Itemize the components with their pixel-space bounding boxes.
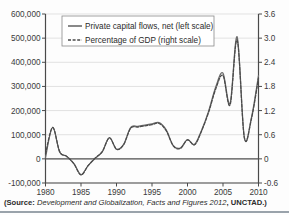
left-tick-label: 300,000 — [11, 82, 41, 91]
x-tick-label: 2010 — [249, 188, 268, 197]
x-tick-label: 1985 — [72, 188, 91, 197]
left-tick-label: 200,000 — [11, 107, 41, 116]
right-tick-label: 3.0 — [264, 34, 276, 43]
x-tick-label: 1990 — [107, 188, 126, 197]
source-caption: (Source: Development and Globalization, … — [4, 198, 287, 207]
data-series-layer — [46, 37, 259, 175]
x-tick-label: 2000 — [178, 188, 197, 197]
source-caption-tail: , UNCTAD.) — [226, 198, 266, 207]
x-axis-ticks — [46, 183, 259, 187]
right-tick-label: -0.6 — [264, 179, 279, 188]
legend-label-2: Percentage of GDP (right scale) — [85, 36, 201, 45]
right-tick-label: 0 — [264, 155, 269, 164]
bottom-divider — [0, 211, 289, 213]
left-tick-label: 400,000 — [11, 58, 41, 67]
left-tick-label: 500,000 — [11, 34, 41, 43]
series-line-1 — [46, 37, 259, 175]
left-tick-label: -100,000 — [8, 179, 41, 188]
right-tick-label: 1.8 — [264, 82, 276, 91]
legend-label-1: Private capital flows, net (left scale) — [85, 22, 214, 31]
left-tick-label: 100,000 — [11, 131, 41, 140]
right-tick-label: 1.2 — [264, 107, 276, 116]
figure-container: -100,0000100,000200,000300,000400,000500… — [0, 0, 289, 215]
series-line-2 — [46, 40, 259, 175]
left-tick-label: 600,000 — [11, 10, 41, 19]
x-tick-label: 1995 — [143, 188, 162, 197]
source-caption-lead: (Source: — [4, 198, 37, 207]
chart-legend: Private capital flows, net (left scale)P… — [62, 16, 214, 46]
chart-plot-area: -100,0000100,000200,000300,000400,000500… — [0, 0, 289, 215]
left-tick-label: 0 — [36, 155, 41, 164]
right-tick-label: 0.6 — [264, 131, 276, 140]
right-tick-label: 2.4 — [264, 58, 276, 67]
x-tick-label: 2005 — [214, 188, 233, 197]
x-tick-label: 1980 — [36, 188, 55, 197]
source-caption-title: Development and Globalization, Facts and… — [37, 198, 227, 207]
right-tick-label: 3.6 — [264, 10, 276, 19]
